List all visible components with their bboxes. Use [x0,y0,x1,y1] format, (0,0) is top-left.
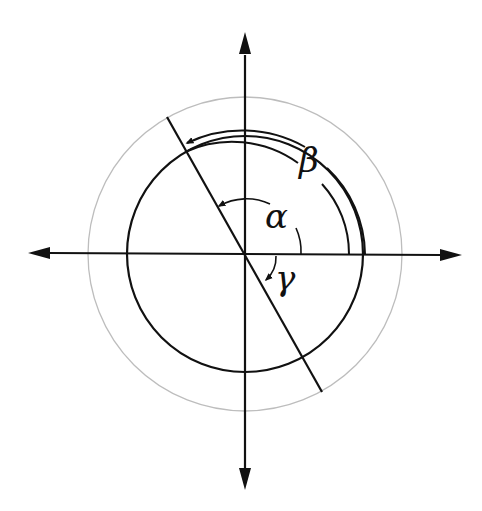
beta-label: β [297,140,319,180]
right-arrow-icon [440,249,462,261]
alpha-label: α [265,196,288,236]
beta-inner-arc [322,184,349,254]
beta-arc-outer-right [327,168,365,254]
gamma-label: γ [275,258,296,298]
left-arrow-icon [28,247,50,259]
up-arrow-icon [239,32,251,54]
beta-arc-inner-upper [185,142,298,163]
alpha-arc-right [296,228,301,254]
down-arrow-icon [239,468,251,490]
angle-diagram: α β γ [0,0,482,511]
